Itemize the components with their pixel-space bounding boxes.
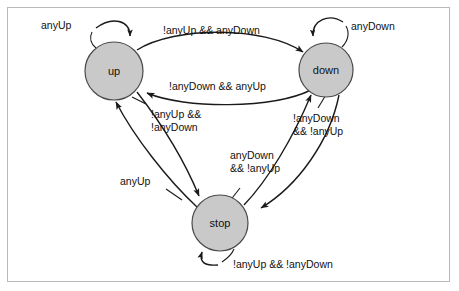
transition-up-to-stop-label-line1: !anyUp && bbox=[151, 108, 201, 120]
state-diagram-screenshot: !anyUp && anyDown !anyDown && anyUp anyU… bbox=[0, 0, 459, 291]
transition-down-to-stop-label-line2: && !anyUp bbox=[293, 125, 343, 137]
transition-up-self-label: anyUp bbox=[41, 19, 72, 31]
transition-down-self-label: anyDown bbox=[351, 20, 395, 32]
state-label-stop: stop bbox=[210, 217, 231, 229]
transition-down-self-leader bbox=[342, 26, 348, 47]
state-machine-diagram: !anyUp && anyDown !anyDown && anyUp anyU… bbox=[0, 0, 459, 291]
transition-down-to-up: !anyDown && anyUp bbox=[147, 80, 311, 105]
transition-stop-to-up-leader bbox=[166, 189, 182, 200]
transition-stop-self-label: !anyUp && !anyDown bbox=[233, 258, 333, 270]
state-label-down: down bbox=[313, 64, 339, 76]
transition-up-to-down: !anyUp && anyDown bbox=[137, 24, 303, 52]
state-node-down[interactable]: down bbox=[299, 43, 353, 97]
transition-down-self-path bbox=[313, 18, 343, 36]
state-label-up: up bbox=[108, 65, 120, 77]
transition-down-to-up-path bbox=[147, 90, 311, 105]
transition-stop-to-up-label: anyUp bbox=[120, 175, 151, 187]
state-node-stop[interactable]: stop bbox=[192, 195, 248, 251]
transition-down-to-up-label: !anyDown && anyUp bbox=[169, 80, 266, 92]
transition-stop-self: !anyUp && !anyDown bbox=[201, 249, 333, 270]
state-node-up[interactable]: up bbox=[85, 42, 143, 100]
transition-up-to-stop-label-line2: !anyDown bbox=[151, 121, 198, 133]
transition-stop-self-path bbox=[201, 252, 218, 265]
transition-stop-to-down-label-line2: && !anyUp bbox=[230, 162, 280, 174]
transition-up-self-path bbox=[96, 21, 130, 36]
transition-down-to-stop-label-line1: !anyDown bbox=[293, 112, 340, 124]
transition-up-to-down-label: !anyUp && anyDown bbox=[163, 24, 260, 36]
transition-stop-to-down-label-line1: anyDown bbox=[230, 149, 274, 161]
transition-up-self-leader bbox=[91, 32, 96, 48]
